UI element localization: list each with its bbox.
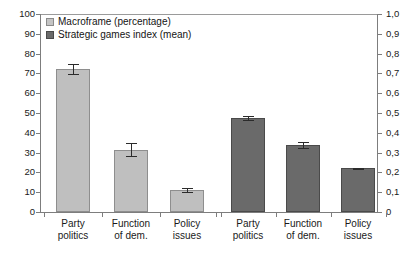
bar [56,69,90,212]
error-bar-cap [298,148,309,149]
category-label: Functionof dem. [272,218,334,242]
right-axis-tick-mark [378,14,382,15]
error-bar-cap [126,143,137,144]
bar [341,168,375,212]
right-axis-tick-mark [378,212,382,213]
category-label: Policyissues [327,218,389,242]
right-axis-tick-label: 0,9 [386,29,414,39]
error-bar-cap [298,142,309,143]
category-label-line: politics [217,230,279,242]
right-axis-tick-mark [378,73,382,74]
right-axis-tick-mark [378,172,382,173]
left-axis-tick-label: 60 [5,88,35,98]
left-axis-tick-label: 90 [5,29,35,39]
category-label-line: Function [272,218,334,230]
left-axis-tick-label: 50 [5,108,35,118]
left-axis-tick-label: 20 [5,167,35,177]
x-axis-tick-mark [221,213,222,217]
right-axis-tick-mark [378,192,382,193]
right-axis-tick-label: 0,7 [386,68,414,78]
right-axis-tick-label: 1,0 [386,9,414,19]
bar [231,118,265,212]
right-axis-tick-label: 0 [386,207,414,217]
category-label-line: Policy [327,218,389,230]
bar [170,190,204,212]
right-axis-tick-mark [378,113,382,114]
x-axis-tick-mark [386,213,387,217]
category-label: Policyissues [156,218,218,242]
error-bar-cap [353,169,364,170]
bar-chart: 0102030405060708090100 00,10,20,30,40,50… [0,0,414,255]
bottom-axis-line [40,212,378,213]
x-axis-tick-mark [276,213,277,217]
right-axis-tick-label: 0,2 [386,167,414,177]
legend-swatch-macroframe-icon [46,18,54,26]
error-bar-cap [182,192,193,193]
left-axis-tick-label: 100 [5,9,35,19]
bar [114,150,148,212]
left-axis-tick-mark [36,172,40,173]
error-bar-cap [68,64,79,65]
left-axis-tick-mark [36,212,40,213]
x-axis-tick-mark [160,213,161,217]
left-axis-tick-mark [36,54,40,55]
left-axis-tick-label: 40 [5,128,35,138]
left-axis-tick-label: 0 [5,207,35,217]
right-axis-tick-mark [378,34,382,35]
error-bar-cap [182,188,193,189]
bar [286,145,320,212]
category-label-line: Policy [156,218,218,230]
error-bar [73,64,74,74]
left-axis-tick-mark [36,93,40,94]
left-axis-tick-label: 30 [5,148,35,158]
left-axis-tick-mark [36,153,40,154]
left-axis-tick-label: 80 [5,49,35,59]
x-axis-tick-mark [102,213,103,217]
error-bar-cap [68,74,79,75]
right-axis-tick-label: 0,8 [386,49,414,59]
right-axis-tick-label: 0,6 [386,88,414,98]
legend-item: Strategic games index (mean) [46,29,191,41]
category-label: Functionof dem. [100,218,162,242]
right-axis-tick-mark [378,54,382,55]
right-axis-tick-label: 0,1 [386,187,414,197]
category-label-line: Function [100,218,162,230]
category-label: Partypolitics [217,218,279,242]
left-axis-tick-mark [36,113,40,114]
category-label-line: Party [217,218,279,230]
right-axis-tick-mark [378,93,382,94]
category-label-line: of dem. [100,230,162,242]
left-axis-tick-mark [36,73,40,74]
left-axis-tick-label: 70 [5,68,35,78]
legend-item: Macroframe (percentage) [46,16,191,28]
x-axis-tick-mark [44,213,45,217]
right-axis-tick-label: 0,4 [386,128,414,138]
left-axis-line [40,14,41,213]
left-axis-tick-mark [36,133,40,134]
right-axis-tick-label: 0,5 [386,108,414,118]
category-label-line: issues [327,230,389,242]
category-label-line: issues [156,230,218,242]
x-axis-tick-mark [331,213,332,217]
category-label-line: of dem. [272,230,334,242]
left-axis-tick-mark [36,34,40,35]
error-bar-cap [126,156,137,157]
category-label-line: Party [42,218,104,230]
right-axis-tick-mark [378,133,382,134]
legend-swatch-strategic-icon [46,31,54,39]
error-bar-cap [243,120,254,121]
category-label: Partypolitics [42,218,104,242]
x-axis-tick-mark [216,213,217,217]
error-bar-cap [243,116,254,117]
plot-top-border [40,14,378,15]
right-axis-tick-mark [378,153,382,154]
left-axis-tick-mark [36,14,40,15]
category-label-line: politics [42,230,104,242]
legend-label-strategic-games: Strategic games index (mean) [58,30,191,40]
right-axis-tick-label: 0,3 [386,148,414,158]
left-axis-tick-mark [36,192,40,193]
left-axis-tick-label: 10 [5,187,35,197]
chart-legend: Macroframe (percentage) Strategic games … [46,16,191,42]
error-bar [131,143,132,156]
legend-label-macroframe: Macroframe (percentage) [58,17,171,27]
